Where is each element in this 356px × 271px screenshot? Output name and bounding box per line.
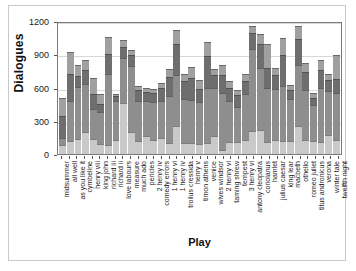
bar-segment	[196, 89, 203, 102]
x-tick-mark	[261, 156, 262, 159]
bar-segment	[310, 141, 317, 154]
x-tick-mark	[192, 156, 193, 159]
bar-segment	[280, 55, 287, 86]
x-tick-mark	[61, 156, 62, 159]
y-tick-label: 1200	[29, 18, 49, 27]
bar	[82, 60, 89, 154]
x-tick-label: 3 henry vi	[248, 161, 255, 191]
x-tick-mark	[223, 156, 224, 159]
y-axis-title: Dialogues	[12, 16, 26, 110]
bar	[257, 34, 264, 154]
bar-segment	[264, 88, 271, 142]
x-tick-mark	[153, 156, 154, 159]
bar	[59, 98, 66, 154]
bar-segment	[318, 88, 325, 142]
x-tick-label: pericles	[148, 161, 155, 185]
bar-segment	[120, 47, 127, 58]
bar-segment	[287, 90, 294, 99]
bar-segment	[257, 68, 264, 130]
x-tick-label: tempest	[241, 161, 248, 186]
bar-segment	[135, 90, 142, 101]
bar-segment	[143, 136, 150, 154]
x-axis-ticks: midsummerall wellas you like itcymbeline…	[57, 156, 342, 236]
x-tick-label: 2 henry iv	[156, 161, 163, 191]
x-tick-mark	[277, 156, 278, 159]
y-axis: 03006009001200	[0, 0, 57, 160]
bar-segment	[67, 52, 74, 74]
x-tick-mark	[215, 156, 216, 159]
bar	[295, 26, 302, 154]
bar-segment	[325, 80, 332, 92]
bar-segment	[302, 72, 309, 90]
bar-segment	[90, 139, 97, 154]
bar-segment	[219, 150, 226, 154]
x-tick-label: taming shrew	[233, 161, 240, 203]
x-tick-label: 2 henry vi	[225, 161, 232, 191]
x-tick-label: timon athens	[202, 161, 209, 201]
bar	[181, 74, 188, 154]
bar-segment	[242, 140, 249, 154]
bar	[242, 74, 249, 154]
bar	[310, 93, 317, 154]
x-tick-label: love labours	[125, 161, 132, 199]
x-tick-mark	[169, 156, 170, 159]
y-tick-label: 300	[34, 117, 49, 126]
bar-segment	[166, 77, 173, 96]
bar-segment	[181, 143, 188, 154]
bar-segment	[333, 79, 340, 92]
x-tick-mark	[253, 156, 254, 159]
bar-segment	[196, 102, 203, 144]
x-tick-label: king john	[102, 161, 109, 189]
x-tick-mark	[92, 156, 93, 159]
x-tick-mark	[84, 156, 85, 159]
bar-segment	[67, 101, 74, 141]
bar-segment	[249, 33, 256, 49]
bar-segment	[295, 126, 302, 154]
bar-segment	[90, 109, 97, 139]
x-tick-mark	[230, 156, 231, 159]
bar-segment	[188, 143, 195, 154]
bar-segment	[272, 75, 279, 89]
bar-segment	[82, 70, 89, 84]
bar-segment	[295, 65, 302, 127]
x-tick-label: all well	[71, 161, 78, 182]
x-tick-mark	[307, 156, 308, 159]
x-tick-mark	[338, 156, 339, 159]
x-tick-mark	[238, 156, 239, 159]
bar-segment	[97, 112, 104, 144]
bar-segment	[150, 140, 157, 154]
bar-segment	[196, 80, 203, 88]
bar-segment	[272, 140, 279, 154]
bar-segment	[325, 135, 332, 154]
bar-segment	[226, 81, 233, 88]
bar-segment	[219, 93, 226, 150]
bar-segment	[97, 144, 104, 154]
x-tick-label: macbeth	[294, 161, 301, 188]
bar-segment	[105, 145, 112, 154]
x-tick-mark	[184, 156, 185, 159]
figure-container: 03006009001200 Dialogues midsummerall we…	[0, 0, 356, 271]
bar-segment	[59, 98, 66, 116]
bar-segment	[173, 30, 180, 44]
x-tick-mark	[207, 156, 208, 159]
bar-segment	[318, 70, 325, 88]
x-tick-label: king lear	[287, 161, 294, 187]
bar-segment	[333, 140, 340, 154]
x-tick-label: cymbeline	[86, 161, 93, 193]
bar-segment	[333, 93, 340, 140]
x-tick-label: henry v	[194, 161, 201, 184]
x-tick-mark	[176, 156, 177, 159]
bar-segment	[188, 100, 195, 143]
x-tick-mark	[292, 156, 293, 159]
bar-segment	[150, 102, 157, 140]
bar-segment	[105, 37, 112, 54]
bar-segment	[249, 26, 256, 33]
bar-segment	[90, 94, 97, 108]
bar	[143, 88, 150, 154]
x-tick-label: 1 henry iv	[179, 161, 186, 191]
bar-segment	[242, 81, 249, 94]
bar	[280, 38, 287, 154]
x-tick-label: richard iii	[110, 161, 117, 189]
bar	[97, 94, 104, 154]
bar	[173, 30, 180, 154]
